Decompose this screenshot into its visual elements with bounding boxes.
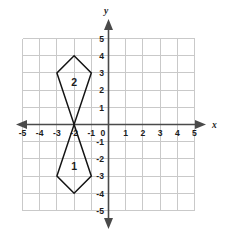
y-tick-label: -4	[96, 189, 104, 199]
y-tick-label: -3	[96, 171, 104, 181]
coordinate-plane-figure: -5-4-3-2-101234554321-1-2-3-4-5 21 x y	[0, 0, 226, 234]
y-tick-label: 2	[99, 85, 104, 95]
shape-annotation-label: 2	[71, 76, 77, 88]
y-tick-label: -2	[96, 154, 104, 164]
y-tick-label: -5	[96, 206, 104, 216]
y-axis-label: y	[103, 6, 109, 16]
x-tick-label: -3	[53, 128, 61, 138]
plot-background	[0, 0, 226, 234]
y-tick-label: 5	[99, 34, 104, 44]
shape-annotation-label: 1	[71, 160, 77, 172]
x-tick-label: 3	[158, 128, 163, 138]
y-tick-label: 1	[99, 103, 104, 113]
x-tick-label: 5	[192, 128, 197, 138]
y-tick-label: -1	[96, 137, 104, 147]
x-tick-label: -5	[19, 128, 27, 138]
x-tick-label: 2	[141, 128, 146, 138]
y-tick-label: 4	[99, 51, 104, 61]
x-tick-label: -1	[87, 128, 95, 138]
y-tick-label: 3	[99, 68, 104, 78]
x-tick-label: 1	[123, 128, 128, 138]
x-axis-label: x	[211, 120, 217, 130]
x-tick-label: 4	[175, 128, 180, 138]
x-tick-label: -4	[36, 128, 44, 138]
